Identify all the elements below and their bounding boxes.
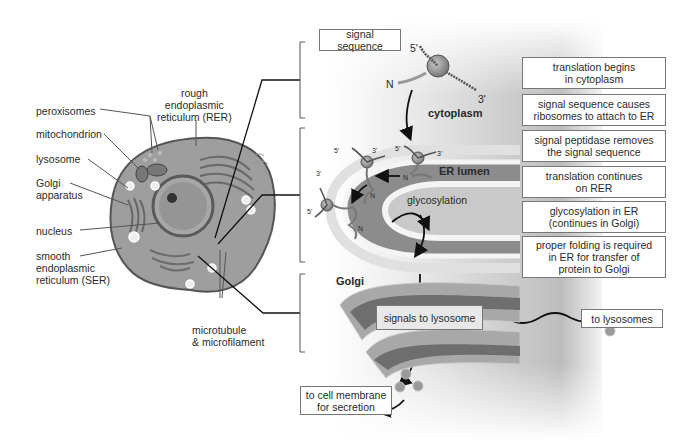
to-cell-membrane-box: to cell membrane for secretion — [300, 386, 392, 415]
label-golgi-apparatus: Golgi apparatus — [36, 177, 83, 201]
er-lumen-label: ER lumen — [439, 165, 490, 177]
glycosylation-label: glycosylation — [407, 194, 467, 206]
label-microtubule: microtubule & microfilament — [192, 324, 264, 348]
golgi-shape — [340, 283, 520, 378]
mark: 3' — [316, 168, 321, 180]
mark: N — [403, 172, 408, 184]
step-box-5: glycosylation in ER (continues in Golgi) — [522, 201, 666, 233]
step-box-4: translation continues on RER — [522, 166, 666, 198]
step-box-3: signal peptidase removes the signal sequ… — [522, 130, 666, 162]
label-lysosome: lysosome — [36, 153, 80, 165]
to-lysosomes-box: to lysosomes — [581, 309, 663, 328]
mark: N — [370, 190, 375, 202]
cytoplasm-label: cytoplasm — [428, 107, 482, 119]
step-box-6: proper folding is required in ER for tra… — [522, 236, 666, 278]
label-mitochondrion: mitochondrion — [36, 128, 102, 140]
label-ser: smooth endoplasmic reticulum (SER) — [36, 250, 110, 286]
mark: N — [358, 223, 363, 235]
step-box-2: signal sequence causes ribosomes to atta… — [522, 94, 666, 126]
mark: 5' — [395, 143, 400, 155]
signal-sequence-box: signal sequence — [319, 29, 401, 51]
signals-to-lysosome-box: signals to lysosome — [376, 305, 483, 330]
mark: 5' — [307, 206, 312, 218]
n-terminus-label: N — [386, 78, 394, 90]
mark: 3' — [372, 145, 377, 157]
three-prime-label: 3' — [478, 93, 486, 105]
label-nucleus: nucleus — [36, 225, 72, 237]
five-prime-label: 5' — [410, 42, 418, 54]
mark: 3' — [437, 148, 442, 160]
label-peroxisomes: peroxisomes — [36, 105, 96, 117]
step-box-1: translation begins in cytoplasm — [522, 57, 666, 89]
mark: 5' — [334, 145, 339, 157]
golgi-label: Golgi — [336, 275, 364, 287]
label-rer: rough endoplasmic reticulum (RER) — [157, 87, 232, 123]
